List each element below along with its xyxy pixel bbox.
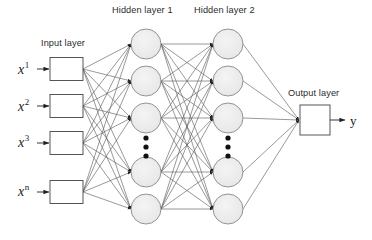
input-label-1: x1 [18, 60, 29, 78]
input-box-4[interactable] [50, 181, 83, 204]
input-box-1[interactable] [50, 58, 83, 81]
input-box-3[interactable] [50, 132, 83, 155]
neural-network-diagram [0, 0, 372, 240]
edges-hidden1-to-hidden2 [161, 44, 213, 209]
input-layer-label: Input layer [41, 38, 85, 48]
hidden-layer-1-label: Hidden layer 1 [112, 5, 173, 15]
input-label-n: xn [18, 182, 29, 200]
hidden2-node-2[interactable] [213, 66, 243, 96]
hidden1-node-1[interactable] [131, 29, 161, 59]
hidden2-node-5[interactable] [213, 194, 243, 224]
input-entry-arrows [37, 69, 49, 192]
hidden-layer-1-nodes [131, 29, 161, 224]
output-layer-label: Output layer [288, 88, 339, 98]
hidden2-vertical-ellipsis-icon [225, 135, 230, 158]
output-label-y: y [350, 113, 357, 129]
hidden-layer-2-label: Hidden layer 2 [194, 5, 255, 15]
hidden-layer-2-nodes [213, 29, 243, 224]
hidden2-node-4[interactable] [213, 157, 243, 187]
hidden1-vertical-ellipsis-icon [143, 135, 148, 158]
input-superscript-2: 2 [25, 97, 30, 107]
input-label-2: x2 [18, 97, 29, 115]
edges-input-to-hidden1 [83, 44, 131, 209]
hidden1-node-4[interactable] [131, 157, 161, 187]
hidden1-node-3[interactable] [131, 103, 161, 133]
input-label-3: x3 [18, 133, 29, 151]
input-superscript-1: 1 [25, 60, 30, 70]
hidden2-node-3[interactable] [213, 103, 243, 133]
hidden2-node-1[interactable] [213, 29, 243, 59]
input-superscript-3: 3 [25, 133, 30, 143]
input-layer-boxes [50, 58, 83, 204]
output-box[interactable] [300, 105, 330, 135]
hidden1-node-5[interactable] [131, 194, 161, 224]
input-superscript-n: n [25, 182, 30, 192]
hidden1-node-2[interactable] [131, 66, 161, 96]
input-box-2[interactable] [50, 95, 83, 118]
edges-hidden2-to-output [243, 44, 299, 209]
